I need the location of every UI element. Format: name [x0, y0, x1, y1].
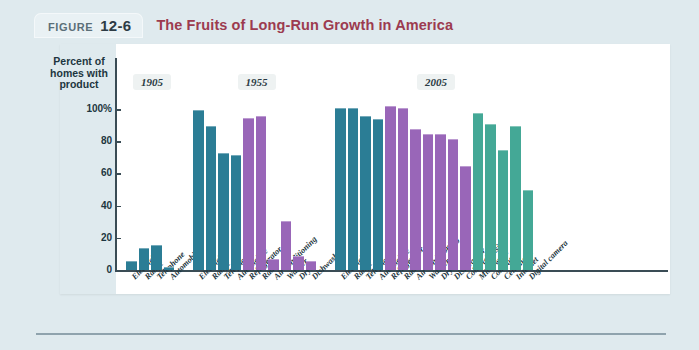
y-tick-mark	[115, 173, 121, 175]
bar	[523, 190, 534, 270]
bar	[151, 245, 162, 270]
bar	[485, 124, 496, 270]
bar	[460, 166, 471, 270]
bar	[256, 116, 267, 270]
bar	[193, 110, 204, 270]
bar	[435, 134, 446, 270]
bar	[423, 134, 434, 270]
era-group-label: 1905	[133, 74, 171, 90]
bar	[348, 108, 359, 270]
bar-series-layer: ElectricityRangeTelephoneAutomobileElect…	[0, 0, 699, 350]
y-tick-mark	[115, 206, 121, 208]
bar	[473, 113, 484, 270]
bar	[281, 221, 292, 270]
bar	[385, 106, 396, 270]
bar	[360, 116, 371, 270]
bar	[448, 139, 459, 270]
bar	[231, 155, 242, 270]
y-tick-mark	[115, 141, 121, 143]
y-tick-mark	[115, 238, 121, 240]
era-group-label: 1955	[238, 74, 276, 90]
figure-container: FIGURE 12-6 The Fruits of Long-Run Growt…	[0, 0, 699, 350]
era-group-label: 2005	[417, 74, 455, 90]
bottom-divider	[36, 333, 666, 335]
bar	[398, 108, 409, 270]
bar	[243, 118, 254, 270]
y-tick-mark	[115, 109, 121, 111]
y-tick-mark	[115, 270, 121, 272]
bar	[139, 248, 150, 270]
bar	[498, 150, 509, 270]
bar	[218, 153, 229, 270]
bar	[335, 108, 346, 270]
bar	[206, 126, 217, 270]
bar	[293, 256, 304, 270]
bar	[510, 126, 521, 270]
bar	[410, 129, 421, 270]
bar	[373, 119, 384, 270]
